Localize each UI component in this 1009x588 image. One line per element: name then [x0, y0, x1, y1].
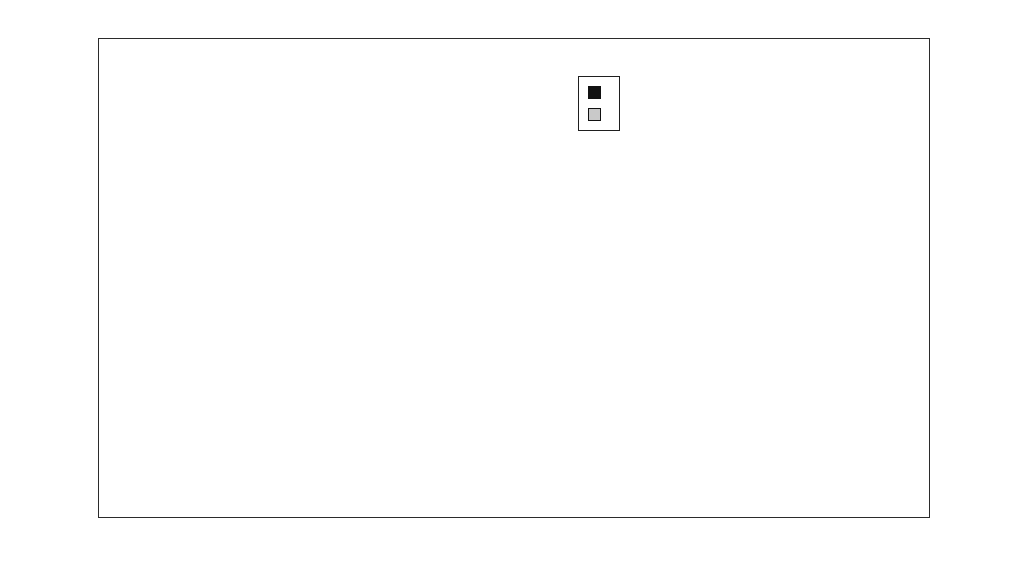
- stacked-area-series: [99, 39, 931, 519]
- y-axis-right-ticks: [939, 38, 1003, 518]
- legend-item-article5: [588, 81, 607, 103]
- black-square-icon: [588, 86, 601, 99]
- chart-legend: [578, 76, 620, 131]
- gray-square-icon: [588, 108, 601, 121]
- legend-item-non-article5: [588, 103, 607, 125]
- chart-container: [0, 0, 1009, 588]
- y-axis-left-ticks: [30, 38, 92, 518]
- x-axis-ticks: [98, 524, 930, 546]
- plot-area: [98, 38, 930, 518]
